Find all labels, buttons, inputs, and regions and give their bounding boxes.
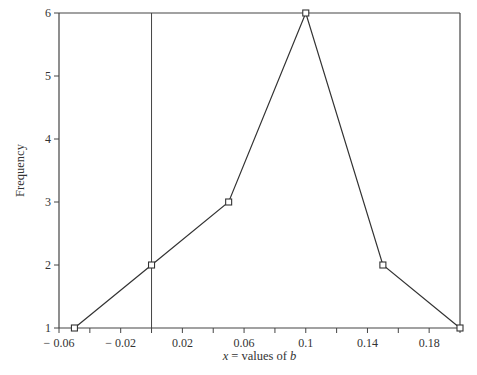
y-tick-label: 1: [45, 321, 51, 335]
data-point-marker: [226, 199, 232, 205]
data-point-marker: [149, 262, 155, 268]
y-tick-label: 6: [45, 6, 51, 20]
data-point-marker: [380, 262, 386, 268]
x-tick-label: 0.14: [357, 336, 378, 350]
x-tick-label: 0.02: [172, 336, 193, 350]
y-tick-label: 2: [45, 258, 51, 272]
y-axis-title: Frequency: [13, 143, 27, 197]
series-group: [71, 10, 463, 331]
y-tick-label: 3: [45, 195, 51, 209]
x-axis-title-text: = values of: [228, 349, 290, 363]
x-tick-label: 0.18: [419, 336, 440, 350]
x-tick-label: − 0.06: [44, 336, 75, 350]
data-point-marker: [71, 325, 77, 331]
data-point-marker: [457, 325, 463, 331]
frequency-polygon-chart: − 0.06− 0.020.020.060.10.140.18123456 Fr…: [0, 0, 477, 375]
x-axis-title-b: b: [290, 349, 296, 363]
y-tick-label: 4: [45, 132, 51, 146]
labels-group: Frequency x = values of b: [13, 143, 296, 363]
axes: − 0.06− 0.020.020.060.10.140.18123456: [44, 6, 460, 350]
x-tick-label: − 0.02: [105, 336, 136, 350]
x-tick-label: 0.06: [234, 336, 255, 350]
x-tick-label: 0.1: [298, 336, 313, 350]
data-point-marker: [303, 10, 309, 16]
y-tick-label: 5: [45, 69, 51, 83]
x-axis-title: x = values of b: [222, 349, 297, 363]
series-line: [74, 13, 460, 328]
